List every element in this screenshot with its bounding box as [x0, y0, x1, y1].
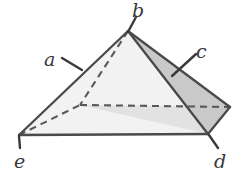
leader-line-d: [209, 135, 218, 148]
leader-line-e: [19, 136, 20, 148]
label-a: a: [44, 50, 55, 69]
geometry-figure-canvas: a b c d e: [0, 0, 244, 180]
label-c: c: [196, 42, 207, 61]
edge-left-to-bottom: [19, 134, 208, 135]
label-b: b: [132, 1, 144, 20]
pyramid-diagram-svg: [0, 0, 244, 180]
label-d: d: [214, 152, 226, 171]
label-e: e: [14, 152, 25, 171]
leader-line-a: [62, 58, 82, 70]
